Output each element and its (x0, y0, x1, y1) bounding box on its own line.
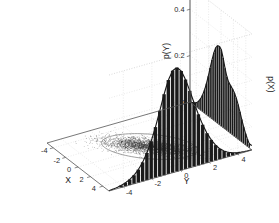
axis-p-x-title: p(X) (266, 76, 276, 92)
scatter-point (92, 147, 93, 148)
scatter-point (204, 152, 205, 153)
scatter-point (107, 151, 108, 152)
scatter-point (135, 138, 136, 139)
scatter-point (144, 141, 145, 142)
scatter-point (119, 140, 120, 141)
scatter-point (151, 138, 152, 139)
scatter-point (133, 138, 134, 139)
scatter-point (99, 138, 100, 139)
scatter-point (101, 148, 102, 149)
scatter-point (132, 143, 133, 144)
scatter-point (157, 152, 158, 153)
scatter-point (209, 148, 210, 149)
scatter-point (128, 147, 129, 148)
scatter-point (138, 147, 139, 148)
scatter-point (138, 152, 139, 153)
scatter-point (183, 150, 184, 151)
scatter-point (130, 143, 131, 144)
scatter-point (141, 150, 142, 151)
scatter-point (108, 141, 109, 142)
scatter-point (121, 144, 122, 145)
scatter-point (109, 139, 110, 140)
scatter-point (101, 144, 102, 145)
scatter-point (95, 138, 96, 139)
scatter-point (127, 137, 128, 138)
axis-z-left-tick-label: 0 (180, 98, 184, 107)
scatter-point (139, 146, 140, 147)
scatter-point (144, 145, 145, 146)
scatter-point (116, 137, 117, 138)
scatter-point (117, 143, 118, 144)
scatter-point (141, 147, 142, 148)
scatter-point (128, 142, 129, 143)
scatter-point (139, 137, 140, 138)
scatter-point (130, 142, 131, 143)
scatter-point (85, 141, 86, 142)
scatter-point (131, 137, 132, 138)
scatter-point (111, 145, 112, 146)
scatter-point (124, 135, 125, 136)
scatter-point (124, 148, 125, 149)
scatter-point (103, 142, 104, 143)
scatter-point (114, 138, 115, 139)
scatter-point (113, 142, 114, 143)
scatter-point (116, 148, 117, 149)
scatter-point (106, 146, 107, 147)
scatter-point (127, 141, 128, 142)
scatter-point (97, 140, 98, 141)
scatter-point (106, 139, 107, 140)
scatter-point (133, 145, 134, 146)
scatter-point (109, 148, 110, 149)
scatter-point (136, 152, 137, 153)
scatter-point (145, 142, 146, 143)
scatter-point (121, 146, 122, 147)
scatter-point (115, 142, 116, 143)
scatter-point (123, 147, 124, 148)
scatter-point (108, 146, 109, 147)
scatter-point (101, 138, 102, 139)
scatter-point (121, 138, 122, 139)
scatter-point (148, 147, 149, 148)
scatter-point (101, 137, 102, 138)
scatter-point (139, 145, 140, 146)
scatter-point (124, 149, 125, 150)
scatter-point (146, 144, 147, 145)
scatter-point (144, 150, 145, 151)
scatter-point (138, 138, 139, 139)
scatter-point (123, 150, 124, 151)
scatter-point (135, 145, 136, 146)
scatter-point (91, 140, 92, 141)
scatter-point (147, 140, 148, 141)
scatter-point (105, 141, 106, 142)
scatter-point (114, 139, 115, 140)
scatter-point (103, 143, 104, 144)
scatter-point (110, 131, 111, 132)
scatter-point (132, 139, 133, 140)
scatter-point (137, 137, 138, 138)
axis-y-title: Y (184, 176, 190, 186)
scatter-point (140, 156, 141, 157)
scatter-point (120, 146, 121, 147)
scatter-point (123, 144, 124, 145)
scatter-point (139, 154, 140, 155)
scatter-point (139, 151, 140, 152)
scatter-point (161, 147, 162, 148)
scatter-point (226, 154, 227, 155)
scatter-point (131, 140, 132, 141)
axis-y-tick-label: 2 (213, 163, 217, 172)
scatter-point (136, 144, 137, 145)
scatter-point (118, 151, 119, 152)
scatter-point (149, 140, 150, 141)
scatter-point (143, 143, 144, 144)
scatter-point (134, 147, 135, 148)
scatter-point (136, 148, 137, 149)
scatter-point (125, 143, 126, 144)
axis-x-tick-label: 0 (67, 165, 71, 174)
scatter-point (138, 153, 139, 154)
axis-y-tick (238, 154, 239, 155)
scatter-point (125, 148, 126, 149)
scatter-point (140, 152, 141, 153)
scatter-point (143, 137, 144, 138)
scatter-point (138, 140, 139, 141)
scatter-point (144, 155, 145, 156)
